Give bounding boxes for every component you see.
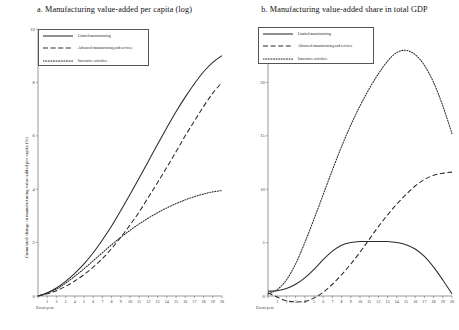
svg-text:18: 18 xyxy=(432,299,436,304)
svg-text:5: 5 xyxy=(313,299,315,304)
legend-b: Limited manufacturing Advanced manufactu… xyxy=(258,27,374,64)
svg-text:16: 16 xyxy=(183,299,187,304)
legend-label-innovative-activities-a: Innovative activities xyxy=(78,59,107,63)
legend-a: Limited manufacturing Advanced manufactu… xyxy=(38,29,149,66)
svg-text:4: 4 xyxy=(74,299,76,304)
svg-text:7: 7 xyxy=(101,299,103,304)
legend-swatch-dashed-b xyxy=(263,43,293,49)
svg-text:6: 6 xyxy=(92,299,94,304)
legend-item-innovative-activities-a: Innovative activities xyxy=(39,55,148,67)
legend-item-limited-manufacturing-b: Limited manufacturing xyxy=(259,28,373,40)
svg-text:20: 20 xyxy=(220,299,224,304)
svg-text:9: 9 xyxy=(120,299,122,304)
x-axis-label-a: Event year xyxy=(36,305,52,310)
svg-text:17: 17 xyxy=(422,299,426,304)
svg-text:3: 3 xyxy=(65,299,67,304)
legend-label-limited-manufacturing-b: Limited manufacturing xyxy=(298,32,331,36)
legend-item-innovative-activities-b: Innovative activities xyxy=(259,53,373,65)
svg-text:10: 10 xyxy=(260,187,265,192)
legend-swatch-solid-a xyxy=(43,33,73,39)
svg-text:10: 10 xyxy=(30,27,35,32)
svg-text:16: 16 xyxy=(413,299,417,304)
svg-text:4: 4 xyxy=(32,187,35,192)
svg-text:5: 5 xyxy=(83,299,85,304)
svg-text:2: 2 xyxy=(32,240,34,245)
x-axis-label-b: Event year xyxy=(256,305,272,310)
series-line-dotted xyxy=(38,191,222,296)
svg-text:0: 0 xyxy=(262,294,265,299)
chart-panel-b: b. Manufacturing value-added share in to… xyxy=(230,0,459,330)
svg-text:8: 8 xyxy=(341,299,343,304)
svg-text:11: 11 xyxy=(367,299,371,304)
svg-text:5: 5 xyxy=(262,240,265,245)
svg-text:7: 7 xyxy=(331,299,333,304)
svg-text:3: 3 xyxy=(295,299,297,304)
svg-text:12: 12 xyxy=(146,299,150,304)
svg-text:6: 6 xyxy=(322,299,324,304)
legend-label-advanced-manufacturing-a: Advanced manufacturing and services xyxy=(78,46,132,50)
svg-text:2: 2 xyxy=(55,299,57,304)
svg-text:8: 8 xyxy=(111,299,113,304)
legend-swatch-dotted-b xyxy=(263,56,293,62)
legend-swatch-dashed-a xyxy=(43,45,73,51)
chart-panel-a: a. Manufacturing value-added per capita … xyxy=(0,0,229,330)
svg-text:15: 15 xyxy=(174,299,178,304)
figure-container: a. Manufacturing value-added per capita … xyxy=(0,0,459,330)
svg-text:18: 18 xyxy=(202,299,206,304)
svg-text:10: 10 xyxy=(358,299,362,304)
svg-text:19: 19 xyxy=(441,299,445,304)
svg-text:0: 0 xyxy=(32,294,35,299)
series-line-dashed xyxy=(38,82,222,296)
svg-text:9: 9 xyxy=(350,299,352,304)
legend-item-advanced-manufacturing-a: Advanced manufacturing and services xyxy=(39,42,148,54)
svg-text:13: 13 xyxy=(386,299,390,304)
legend-item-advanced-manufacturing-b: Advanced manufacturing and services xyxy=(259,40,373,52)
svg-text:1: 1 xyxy=(276,299,278,304)
svg-text:14: 14 xyxy=(395,299,399,304)
svg-text:13: 13 xyxy=(156,299,160,304)
legend-item-limited-manufacturing-a: Limited manufacturing xyxy=(39,30,148,42)
svg-text:8: 8 xyxy=(32,80,35,85)
svg-text:17: 17 xyxy=(192,299,196,304)
legend-label-advanced-manufacturing-b: Advanced manufacturing and services xyxy=(298,44,352,48)
svg-text:15: 15 xyxy=(404,299,408,304)
svg-text:6: 6 xyxy=(32,133,35,138)
series-line-dotted xyxy=(268,50,452,294)
svg-text:11: 11 xyxy=(137,299,141,304)
legend-label-innovative-activities-b: Innovative activities xyxy=(298,57,327,61)
svg-text:2: 2 xyxy=(285,299,287,304)
legend-label-limited-manufacturing-a: Limited manufacturing xyxy=(78,34,111,38)
svg-text:20: 20 xyxy=(450,299,454,304)
series-line-solid xyxy=(38,56,222,296)
svg-text:15: 15 xyxy=(260,133,265,138)
legend-swatch-dotted-a xyxy=(43,58,73,64)
svg-text:19: 19 xyxy=(211,299,215,304)
series-line-solid xyxy=(268,241,452,293)
svg-text:1: 1 xyxy=(46,299,48,304)
svg-text:20: 20 xyxy=(260,80,265,85)
series-line-dashed xyxy=(268,172,452,302)
svg-text:14: 14 xyxy=(165,299,169,304)
svg-text:12: 12 xyxy=(376,299,380,304)
svg-text:10: 10 xyxy=(128,299,132,304)
legend-swatch-solid-b xyxy=(263,31,293,37)
